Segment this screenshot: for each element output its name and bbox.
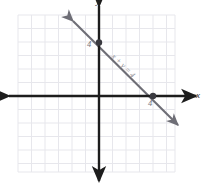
coordinate-plane-svg <box>0 0 208 187</box>
point-y-intercept <box>96 39 102 45</box>
x-axis-label: x <box>196 90 200 100</box>
axis-lines <box>9 6 196 181</box>
graph-figure: 4 4 x + y = 4 x y <box>0 0 208 187</box>
x-intercept-label: 4 <box>148 98 152 108</box>
y-axis-label: y <box>96 0 100 6</box>
y-intercept-label: 4 <box>87 39 91 49</box>
